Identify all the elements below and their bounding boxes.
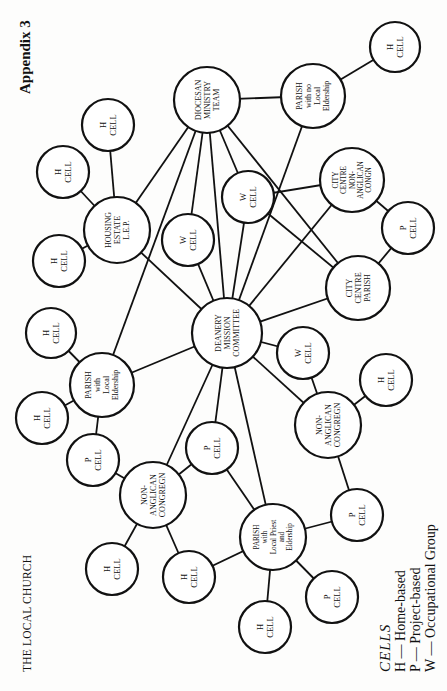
node-p-plp-bottom: PCELL xyxy=(306,571,358,623)
node-h-top-right: HCELL xyxy=(370,22,420,72)
node-label: PARISHwith noLocalEldership xyxy=(295,81,331,112)
node-w-upper: WCELL xyxy=(222,171,274,223)
legend-title: CELLS xyxy=(378,524,393,672)
node-h-nar: HCELL xyxy=(360,354,412,406)
node-city-non-anglican: CITYCENTRENON-ANGLICANCONGN xyxy=(320,148,384,212)
legend-item-p: P — Project-based xyxy=(408,524,423,672)
node-h-plp-bottom: HCELL xyxy=(239,601,291,653)
node-h-nal-left: HCELL xyxy=(86,543,138,595)
node-deanery: DEANERYMISSIONCOMMITTEE xyxy=(192,298,262,368)
node-parish-local-eldership: PARISHwithLocalEldership xyxy=(70,353,134,417)
node-h-he-bottom: HCELL xyxy=(33,235,85,287)
node-p-city: PCELL xyxy=(382,202,434,254)
legend-item-w: W — Occupational Group xyxy=(423,524,438,672)
node-h-he-left: HCELL xyxy=(37,146,89,198)
diagram-nodes: DEANERYMISSIONCOMMITTEEDIOCESANMINISTRYT… xyxy=(16,22,434,653)
node-diocesan: DIOCESANMINISTRYTEAM xyxy=(174,67,240,133)
node-h-nal-right: HCELL xyxy=(163,551,215,603)
node-w-left: WCELL xyxy=(162,214,214,266)
node-h-ple-left: HCELL xyxy=(16,392,68,444)
node-w-right: WCELL xyxy=(277,327,329,379)
node-parish-no-local: PARISHwith noLocalEldership xyxy=(281,64,345,128)
book-page: Appendix 3 THE LOCAL CHURCH DEANERYMISSI… xyxy=(0,0,447,691)
node-p-ple: PCELL xyxy=(67,434,119,486)
node-housing-estate: HOUSINGESTATEL.E.P. xyxy=(84,197,150,263)
node-label: PARISHwithLocal PriestandEldership xyxy=(253,520,293,555)
legend-item-h: H — Home-based xyxy=(393,524,408,672)
node-non-anglican-right: NON-ANGLICANCONGREGN xyxy=(295,392,361,458)
node-h-ple-top: HCELL xyxy=(26,308,76,358)
node-p-center: PCELL xyxy=(186,422,238,474)
cells-legend: CELLS H — Home-based P — Project-based W… xyxy=(378,524,438,672)
node-p-plp-right: PCELL xyxy=(331,489,383,541)
node-non-anglican-left: NON-ANGLICANCONGREGN xyxy=(120,462,186,528)
node-h-he-top: HCELL xyxy=(82,99,134,151)
node-parish-local-priest: PARISHwithLocal PriestandEldership xyxy=(240,504,306,570)
node-city-parish: CITYCENTREPARISH xyxy=(326,256,390,320)
